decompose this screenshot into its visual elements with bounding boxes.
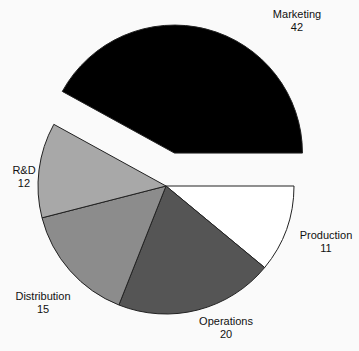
slice-label-name: Production	[300, 229, 353, 242]
slice-label-production: Production11	[300, 229, 353, 255]
slice-label-name: Distribution	[15, 290, 70, 303]
slice-label-value: 11	[300, 242, 353, 255]
slice-label-name: Operations	[199, 315, 253, 328]
slice-label-name: R&D	[12, 164, 35, 177]
slice-label-value: 42	[273, 21, 321, 34]
slice-label-name: Marketing	[273, 8, 321, 21]
slice-label-value: 15	[15, 303, 70, 316]
pie-slice-marketing	[62, 25, 302, 153]
slice-label-value: 20	[199, 328, 253, 341]
slice-label-marketing: Marketing42	[273, 8, 321, 34]
slice-label-value: 12	[12, 177, 35, 190]
slice-label-rd: R&D12	[12, 164, 35, 190]
slice-label-distribution: Distribution15	[15, 290, 70, 316]
slice-label-operations: Operations20	[199, 315, 253, 341]
